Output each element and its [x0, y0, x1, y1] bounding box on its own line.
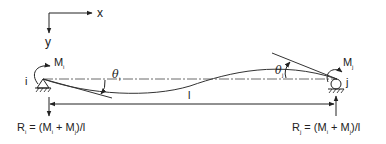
theta-j-sub: j — [281, 72, 283, 78]
span-label: l — [188, 89, 190, 101]
theta-i-label: θ — [112, 68, 119, 81]
moment-i-label: M — [54, 56, 63, 68]
theta-i-sub: i — [119, 76, 120, 82]
reaction-i-formula: Ri = (Mi + Mj)/l — [17, 121, 85, 135]
x-axis-label: x — [97, 6, 103, 20]
moment-j-sub: j — [351, 64, 353, 70]
left-tangent-line — [43, 79, 112, 98]
moment-i-sub: i — [63, 64, 64, 70]
moment-j-label: M — [343, 56, 352, 68]
y-axis-label: y — [45, 35, 51, 49]
node-i-label: i — [25, 75, 27, 87]
coordinate-axes: x y — [45, 6, 103, 49]
beam-diagram: x y θ i θ j i M i j M j l Ri = (Mi — [0, 0, 386, 144]
reaction-j-formula: Rj = (Mi + Mj)/l — [292, 121, 360, 135]
moment-i-arrow — [34, 66, 50, 84]
node-j-label: j — [345, 76, 348, 88]
theta-j-label: θ — [275, 64, 282, 77]
right-roller-support — [328, 79, 344, 93]
